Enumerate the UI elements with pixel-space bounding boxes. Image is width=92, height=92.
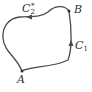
label-point-b: B — [74, 4, 82, 15]
label-a-text: A — [17, 73, 25, 86]
label-point-a: A — [17, 74, 25, 85]
label-path-c2-star: C2* — [22, 3, 38, 18]
label-path-c1: C1 — [75, 40, 88, 55]
label-b-text: B — [74, 3, 82, 16]
label-c2-sup: * — [31, 2, 35, 10]
path-c1 — [22, 11, 71, 71]
arrow-c1-icon — [69, 40, 74, 46]
point-b — [68, 10, 71, 13]
diagram-canvas: A B C1 C2* — [0, 0, 92, 92]
label-c1-sub: 1 — [83, 45, 87, 53]
